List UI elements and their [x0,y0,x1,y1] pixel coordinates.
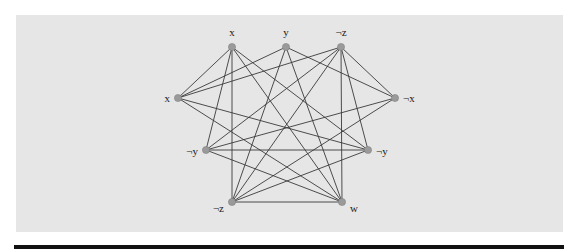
node-nz_bot [228,198,235,205]
edge-nz_top-ny_left [206,47,341,150]
node-x_left [174,94,181,101]
node-nz_top [337,43,344,50]
node-x_top [228,43,235,50]
edge-ny_left-w_bot [206,150,342,202]
edge-nz_top-w_bot [341,47,342,202]
node-label-nx_right: ¬x [403,92,415,104]
node-w_bot [338,198,345,205]
bottom-rule [14,245,564,249]
node-label-ny_left: ¬y [186,145,198,157]
edge-nz_top-nx_right [341,47,395,98]
edge-x_left-ny_right [178,98,368,150]
node-label-x_left: x [165,92,171,104]
node-y_top [282,43,289,50]
node-nx_right [391,94,398,101]
node-label-x_top: x [229,26,235,38]
node-label-y_top: y [283,26,289,38]
edge-ny_right-nz_bot [232,150,368,202]
node-label-w_bot: w [350,202,358,214]
edge-nx_right-ny_left [206,98,395,150]
edge-nz_top-ny_right [341,47,368,150]
edge-x_top-x_left [178,47,232,98]
edges-group [178,47,395,202]
node-ny_right [364,146,371,153]
graph-canvas: xy¬zx¬x¬y¬y¬zw [0,0,582,250]
edge-nz_top-x_left [178,47,341,98]
edge-y_top-nx_right [286,47,395,98]
node-label-nz_top: ¬z [335,26,346,38]
edge-x_top-ny_left [206,47,232,150]
node-label-ny_right: ¬y [376,145,388,157]
node-ny_left [202,146,209,153]
node-label-nz_bot: ¬z [213,202,224,214]
